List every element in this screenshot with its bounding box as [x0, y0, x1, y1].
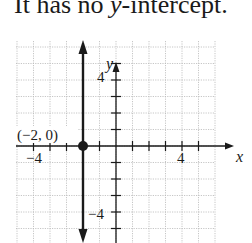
- y-axis-label: y: [104, 55, 114, 73]
- y-tick-label-4: 4: [97, 69, 105, 85]
- x-axis-label: x: [235, 148, 243, 165]
- y-axis: [111, 62, 121, 243]
- x-axis-arrow-icon: [225, 143, 234, 150]
- y-tick-label-neg4: −4: [88, 206, 104, 222]
- x-tick-label-neg4: −4: [26, 150, 42, 166]
- x-tick-label-4: 4: [177, 150, 185, 166]
- point-neg2-0: [78, 141, 88, 151]
- down-arrow-icon: [79, 229, 88, 243]
- point-label: (−2, 0): [17, 127, 58, 144]
- graph: y x −4 4 4 −4 (−2, 0): [0, 0, 252, 243]
